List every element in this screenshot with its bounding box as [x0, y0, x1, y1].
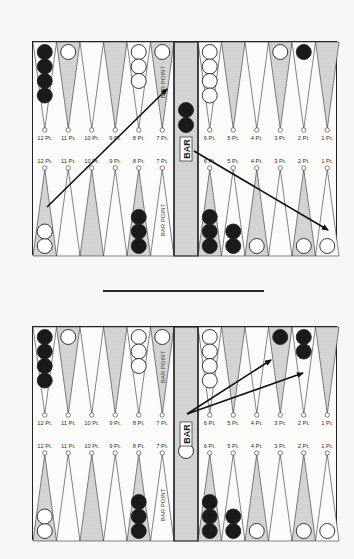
- bar-point-label-bottom: BAR POINT: [160, 488, 166, 521]
- white-checker[interactable]: [155, 45, 170, 60]
- black-checker[interactable]: [131, 524, 146, 539]
- black-checker[interactable]: [296, 45, 311, 60]
- black-checker[interactable]: [202, 224, 217, 239]
- black-checker[interactable]: [202, 239, 217, 254]
- point-label: 1 Pt.: [321, 135, 333, 141]
- svg-text:BAR POINT: BAR POINT: [160, 203, 166, 236]
- point-label: 1 Pt.: [321, 443, 333, 449]
- point-label: 4 Pt.: [251, 158, 263, 164]
- white-checker[interactable]: [131, 359, 146, 374]
- white-checker[interactable]: [202, 373, 217, 388]
- black-checker[interactable]: [37, 74, 52, 89]
- bar-point-label-bottom: BAR POINT: [160, 203, 166, 236]
- black-checker[interactable]: [202, 495, 217, 510]
- white-checker[interactable]: [61, 45, 76, 60]
- point-label: 11 Pt.: [61, 420, 76, 426]
- black-checker[interactable]: [131, 509, 146, 524]
- point-label: 4 Pt.: [251, 420, 263, 426]
- white-checker[interactable]: [249, 524, 264, 539]
- black-checker[interactable]: [202, 509, 217, 524]
- black-checker[interactable]: [202, 524, 217, 539]
- black-checker[interactable]: [37, 88, 52, 103]
- point-label: 7 Pt.: [156, 420, 168, 426]
- black-checker[interactable]: [131, 495, 146, 510]
- black-checker[interactable]: [226, 524, 241, 539]
- svg-text:BAR: BAR: [182, 139, 192, 159]
- white-checker[interactable]: [249, 239, 264, 254]
- white-checker[interactable]: [37, 524, 52, 539]
- point-triangle[interactable]: [80, 454, 104, 541]
- black-checker[interactable]: [226, 224, 241, 239]
- white-checker[interactable]: [37, 239, 52, 254]
- white-checker[interactable]: [131, 45, 146, 60]
- white-checker[interactable]: [202, 344, 217, 359]
- black-checker[interactable]: [179, 118, 194, 133]
- point-label: 5 Pt.: [227, 158, 239, 164]
- point-triangle[interactable]: [80, 42, 104, 129]
- white-checker[interactable]: [202, 330, 217, 345]
- point-triangle[interactable]: [245, 327, 269, 414]
- point-triangle[interactable]: [104, 327, 128, 414]
- point-triangle[interactable]: [104, 454, 128, 541]
- point-label: 12 Pt.: [37, 443, 53, 449]
- white-checker[interactable]: [273, 45, 288, 60]
- white-checker[interactable]: [320, 524, 335, 539]
- black-checker[interactable]: [37, 45, 52, 60]
- backgammon-board-before: 12 Pt.12 Pt.11 Pt.11 Pt.10 Pt.10 Pt.9 Pt…: [32, 41, 337, 255]
- black-checker[interactable]: [37, 359, 52, 374]
- point-triangle[interactable]: [269, 454, 293, 541]
- point-triangle[interactable]: [104, 169, 128, 256]
- point-label: 5 Pt.: [227, 443, 239, 449]
- black-checker[interactable]: [37, 373, 52, 388]
- black-checker[interactable]: [226, 509, 241, 524]
- point-label: 10 Pt.: [84, 443, 100, 449]
- black-checker[interactable]: [131, 210, 146, 225]
- point-triangle[interactable]: [245, 42, 269, 129]
- point-triangle[interactable]: [57, 454, 81, 541]
- point-label: 3 Pt.: [274, 420, 286, 426]
- white-checker[interactable]: [131, 344, 146, 359]
- white-checker[interactable]: [61, 330, 76, 345]
- point-label: 11 Pt.: [61, 443, 76, 449]
- black-checker[interactable]: [273, 330, 288, 345]
- point-label: 2 Pt.: [298, 443, 310, 449]
- point-label: 8 Pt.: [133, 443, 145, 449]
- white-checker[interactable]: [296, 239, 311, 254]
- black-checker[interactable]: [202, 210, 217, 225]
- point-triangle[interactable]: [80, 169, 104, 256]
- black-checker[interactable]: [296, 330, 311, 345]
- white-checker[interactable]: [131, 74, 146, 89]
- divider-line: [103, 290, 264, 292]
- point-triangle[interactable]: [80, 327, 104, 414]
- point-label: 1 Pt.: [321, 158, 333, 164]
- white-checker[interactable]: [202, 88, 217, 103]
- white-checker[interactable]: [202, 59, 217, 74]
- white-checker[interactable]: [131, 59, 146, 74]
- white-checker[interactable]: [37, 509, 52, 524]
- black-checker[interactable]: [37, 330, 52, 345]
- point-triangle[interactable]: [104, 42, 128, 129]
- black-checker[interactable]: [296, 344, 311, 359]
- black-checker[interactable]: [179, 103, 194, 118]
- black-checker[interactable]: [131, 239, 146, 254]
- black-checker[interactable]: [226, 239, 241, 254]
- black-checker[interactable]: [131, 224, 146, 239]
- white-checker[interactable]: [320, 239, 335, 254]
- point-triangle[interactable]: [316, 327, 340, 414]
- white-checker[interactable]: [155, 330, 170, 345]
- white-checker[interactable]: [296, 524, 311, 539]
- black-checker[interactable]: [37, 344, 52, 359]
- point-triangle[interactable]: [269, 169, 293, 256]
- black-checker[interactable]: [37, 59, 52, 74]
- point-triangle[interactable]: [316, 42, 340, 129]
- board-graphics: 12 Pt.12 Pt.11 Pt.11 Pt.10 Pt.10 Pt.9 Pt…: [33, 327, 338, 541]
- point-label: 12 Pt.: [37, 158, 53, 164]
- bar-label: BAR: [180, 422, 192, 446]
- white-checker[interactable]: [37, 224, 52, 239]
- point-triangle[interactable]: [222, 42, 246, 129]
- white-checker[interactable]: [131, 330, 146, 345]
- white-checker[interactable]: [202, 45, 217, 60]
- white-checker[interactable]: [202, 359, 217, 374]
- white-checker[interactable]: [202, 74, 217, 89]
- point-triangle[interactable]: [57, 169, 81, 256]
